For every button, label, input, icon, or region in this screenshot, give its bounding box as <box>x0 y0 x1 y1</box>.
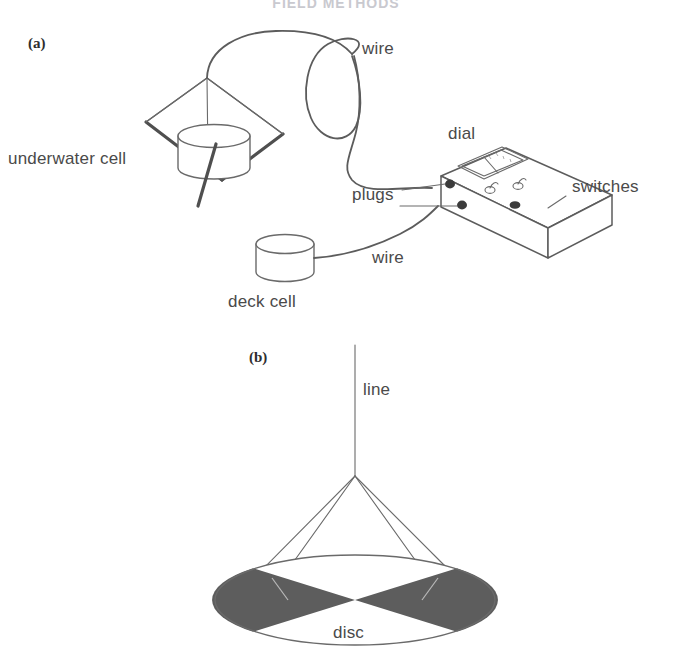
label-wire-bottom: wire <box>371 248 404 267</box>
label-underwater-cell: underwater cell <box>8 149 126 168</box>
plug-socket-lower[interactable] <box>457 201 467 210</box>
panel-a: (a) <box>8 31 639 311</box>
label-disc: disc <box>333 623 364 642</box>
knob-button[interactable] <box>510 201 521 209</box>
panel-b-marker: (b) <box>249 349 267 366</box>
label-deck-cell: deck cell <box>228 292 296 311</box>
label-wire-top: wire <box>361 39 394 58</box>
deck-cell-cylinder <box>256 235 314 282</box>
plug-socket-upper[interactable] <box>445 180 455 189</box>
figure-page: FIELD METHODS (a) <box>0 0 673 659</box>
figure-running-head: FIELD METHODS <box>272 0 399 11</box>
figure-canvas: FIELD METHODS (a) <box>0 0 673 659</box>
panel-a-marker: (a) <box>28 35 46 52</box>
panel-b: (b) line <box>212 345 498 645</box>
label-plugs: plugs <box>352 185 394 204</box>
label-dial: dial <box>448 124 475 143</box>
label-line: line <box>363 380 390 399</box>
label-switches: switches <box>572 177 639 196</box>
meter-box <box>441 147 612 258</box>
